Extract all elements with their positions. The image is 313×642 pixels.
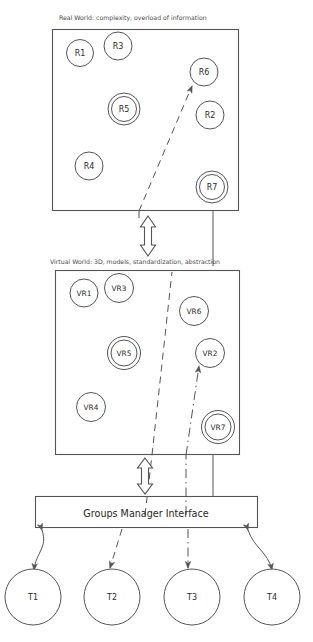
node-label: R4	[84, 162, 95, 171]
dashdot-link-to-vr2	[186, 366, 199, 455]
node-label: VR1	[77, 289, 92, 298]
virtual-world-caption: Virtual World: 3D, models, standardizati…	[50, 258, 220, 265]
terminal-node-T1[interactable]: T1	[5, 569, 61, 625]
interface-t4-connector	[248, 530, 272, 570]
real-world-caption: Real World: complexity, overload of info…	[59, 14, 207, 22]
virtual-node-VR6[interactable]: VR6	[180, 297, 209, 326]
real-node-R5[interactable]: R5	[108, 93, 140, 125]
real-node-R2[interactable]: R2	[196, 101, 224, 129]
real-node-R7[interactable]: R7	[196, 171, 228, 203]
terminal-node-T3[interactable]: T3	[164, 569, 220, 625]
diagram-svg: Real World: complexity, overload of info…	[0, 0, 313, 642]
dashed-link-to-r6	[139, 86, 192, 211]
virtual-interface-double-arrow	[138, 458, 153, 494]
node-label: R3	[113, 42, 124, 51]
node-label: R5	[119, 105, 130, 114]
interface-t1-connector	[34, 530, 44, 570]
node-label: VR4	[84, 403, 99, 412]
real-virtual-double-arrow	[141, 216, 156, 256]
real-node-R3[interactable]: R3	[104, 32, 132, 60]
interface-t2-connector	[110, 529, 122, 568]
node-label: T1	[27, 593, 38, 602]
real-node-R4[interactable]: R4	[75, 152, 103, 180]
node-label: VR6	[187, 307, 202, 316]
real-node-R6[interactable]: R6	[190, 58, 218, 86]
terminal-node-T4[interactable]: T4	[244, 569, 300, 625]
node-label: R1	[75, 49, 86, 58]
node-label: VR2	[203, 349, 218, 358]
virtual-node-VR1[interactable]: VR1	[70, 279, 98, 307]
node-label: R7	[207, 183, 218, 192]
virtual-node-VR2[interactable]: VR2	[196, 339, 225, 368]
virtual-node-VR7[interactable]: VR7	[202, 411, 235, 444]
virtual-node-VR3[interactable]: VR3	[105, 274, 134, 303]
groups-manager-interface-label: Groups Manager Interface	[83, 508, 208, 519]
real-node-R1[interactable]: R1	[67, 40, 94, 67]
node-label: R6	[199, 68, 210, 77]
node-label: T3	[186, 593, 197, 602]
node-label: VR7	[211, 423, 226, 432]
virtual-node-VR4[interactable]: VR4	[77, 393, 106, 422]
terminal-node-T2[interactable]: T2	[84, 569, 140, 625]
virtual-node-VR5[interactable]: VR5	[108, 337, 141, 370]
diagram-canvas: Real World: complexity, overload of info…	[0, 0, 313, 642]
dashed-link-segment-virtual	[152, 272, 172, 455]
node-label: T2	[106, 593, 117, 602]
node-label: VR3	[112, 284, 127, 293]
node-label: T4	[266, 593, 277, 602]
node-label: R2	[205, 111, 216, 120]
node-label: VR5	[117, 349, 132, 358]
